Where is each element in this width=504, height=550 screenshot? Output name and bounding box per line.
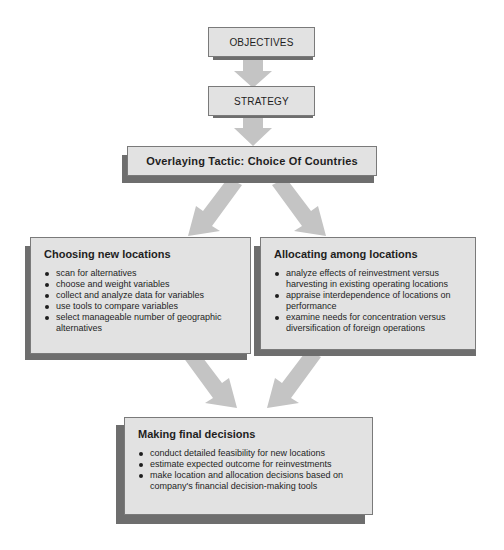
final-title: Making final decisions bbox=[138, 428, 362, 440]
arrow-tactic-to-allocating bbox=[272, 178, 326, 236]
list-item: estimate expected outcome for reinvestme… bbox=[138, 459, 362, 470]
arrow-tactic-to-choosing bbox=[188, 178, 242, 236]
final-panel: Making final decisions conduct detailed … bbox=[124, 417, 373, 515]
objectives-label: OBJECTIVES bbox=[229, 37, 293, 48]
arrow-objectives-to-strategy bbox=[234, 58, 272, 88]
strategy-label: STRATEGY bbox=[234, 96, 289, 107]
arrow-allocating-to-final bbox=[267, 350, 321, 408]
list-item: scan for alternatives bbox=[44, 268, 240, 279]
list-item: choose and weight variables bbox=[44, 279, 240, 290]
choosing-panel: Choosing new locations scan for alternat… bbox=[30, 237, 251, 354]
list-item: analyze effects of reinvestment versus h… bbox=[274, 268, 465, 290]
objectives-box: OBJECTIVES bbox=[208, 27, 315, 57]
final-list: conduct detailed feasibility for new loc… bbox=[138, 448, 362, 492]
strategy-box: STRATEGY bbox=[208, 86, 315, 116]
allocating-list: analyze effects of reinvestment versus h… bbox=[274, 268, 465, 334]
choosing-list: scan for alternatives choose and weight … bbox=[44, 268, 240, 334]
list-item: appraise interdependence of locations on… bbox=[274, 290, 465, 312]
tactic-box: Overlaying Tactic: Choice Of Countries bbox=[127, 146, 377, 176]
list-item: make location and allocation decisions b… bbox=[138, 470, 362, 492]
choosing-title: Choosing new locations bbox=[44, 248, 240, 260]
list-item: collect and analyze data for variables bbox=[44, 290, 240, 301]
list-item: select manageable number of geographic a… bbox=[44, 312, 240, 334]
allocating-panel: Allocating among locations analyze effec… bbox=[260, 237, 476, 350]
arrow-strategy-to-tactic bbox=[234, 115, 272, 146]
list-item: use tools to compare variables bbox=[44, 301, 240, 312]
tactic-label: Overlaying Tactic: Choice Of Countries bbox=[146, 155, 358, 167]
allocating-title: Allocating among locations bbox=[274, 248, 465, 260]
list-item: conduct detailed feasibility for new loc… bbox=[138, 448, 362, 459]
list-item: examine needs for concentration versus d… bbox=[274, 312, 465, 334]
